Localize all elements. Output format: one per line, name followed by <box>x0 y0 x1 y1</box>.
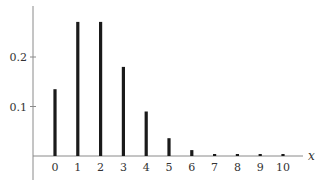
x-tick-label: 4 <box>143 161 150 174</box>
bar-7 <box>213 154 216 156</box>
bar-2 <box>99 22 102 156</box>
x-tick-label: 1 <box>74 161 81 174</box>
x-tick-label: 7 <box>211 161 218 174</box>
x-tick-label: 10 <box>276 161 290 174</box>
bars <box>53 22 284 156</box>
bar-0 <box>53 89 56 156</box>
bar-4 <box>145 112 148 157</box>
y-ticks: 0.10.2 <box>10 51 37 114</box>
y-tick-label: 0.1 <box>10 101 28 114</box>
x-tick-label: 3 <box>120 161 127 174</box>
x-tick-labels: 012345678910 <box>52 161 291 174</box>
x-tick-label: 8 <box>234 161 241 174</box>
bar-10 <box>281 154 284 156</box>
bar-chart: 0.10.2 012345678910 x <box>0 0 324 191</box>
bar-9 <box>259 154 262 156</box>
x-tick-label: 0 <box>52 161 59 174</box>
y-tick-label: 0.2 <box>10 51 28 64</box>
bar-8 <box>236 154 239 156</box>
bar-3 <box>122 67 125 156</box>
bar-1 <box>76 22 79 156</box>
x-tick-label: 2 <box>97 161 104 174</box>
x-tick-label: 6 <box>188 161 195 174</box>
x-axis-label: x <box>308 149 315 163</box>
bar-5 <box>167 138 170 156</box>
bar-6 <box>190 150 193 156</box>
x-tick-label: 9 <box>257 161 264 174</box>
x-tick-label: 5 <box>166 161 173 174</box>
